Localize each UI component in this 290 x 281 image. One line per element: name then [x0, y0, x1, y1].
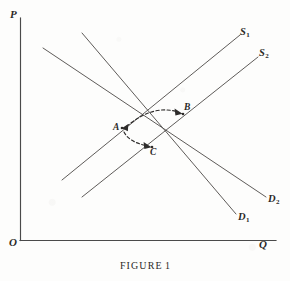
point-label-b: B	[184, 103, 190, 113]
curve-label-d1-letter: D	[238, 211, 246, 222]
curve-label-d1-subscript: 1	[246, 216, 250, 224]
curve-label-s2-subscript: 2	[265, 52, 269, 60]
figure-caption-number: 1	[163, 260, 171, 271]
supply-curve-s2	[82, 57, 258, 197]
demand-curve-d2	[43, 48, 266, 197]
supply-curve-s1	[62, 35, 240, 180]
supply-curves-group	[62, 35, 258, 197]
curve-label-s1-subscript: 1	[246, 31, 250, 39]
quantity-axis-label: Q	[259, 239, 267, 250]
arc-path-a-to-b	[127, 110, 179, 127]
supply-demand-plot	[0, 0, 290, 281]
figure-caption: Figure 1	[0, 260, 290, 271]
equilibrium-points-group	[121, 113, 185, 149]
figure-caption-word: Figure	[120, 260, 163, 271]
point-dot-a	[121, 127, 124, 130]
axes-group	[20, 18, 276, 241]
curve-label-s2-letter: S	[259, 47, 265, 58]
origin-label: O	[9, 237, 17, 248]
point-label-a: A	[113, 123, 119, 133]
curve-label-d2-letter: D	[268, 193, 276, 204]
curve-label-d1: D1	[238, 212, 249, 223]
curve-label-s1: S1	[240, 27, 249, 38]
arrowhead-at-b	[175, 109, 183, 116]
demand-curve-d1	[82, 33, 236, 214]
figure-container: P O Q S1 S2 D1 D2 A B C Figure 1	[0, 0, 290, 281]
demand-curves-group	[43, 33, 266, 214]
curve-label-d2: D2	[268, 194, 279, 205]
curve-label-s1-letter: S	[240, 26, 246, 37]
arrow-a-to-c	[124, 132, 152, 149]
arc-path-a-to-c	[124, 132, 146, 146]
curve-label-s2: S2	[259, 48, 268, 59]
point-label-c: C	[150, 148, 156, 158]
curve-label-d2-subscript: 2	[276, 198, 280, 206]
price-axis-label: P	[10, 9, 17, 20]
point-dot-b	[182, 113, 185, 116]
